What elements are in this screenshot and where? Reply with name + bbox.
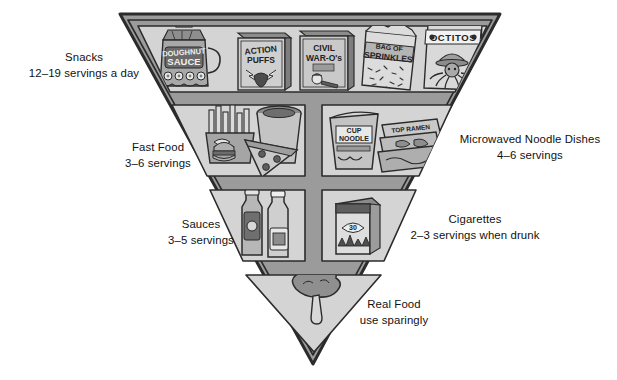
tier-label-snacks-servings: 12–19 servings a day (8, 65, 160, 81)
tier-label-cigarettes-title: Cigarettes (381, 211, 569, 227)
art-cup-noodle: CUP NOODLE (330, 112, 378, 169)
tier-label-sauces: Sauces 3–5 servings (137, 216, 265, 248)
tier-label-cigarettes: Cigarettes 2–3 servings when drunk (381, 211, 569, 243)
tier-label-noodles-servings: 4–6 servings (446, 147, 614, 163)
tier-label-sauces-servings: 3–5 servings (137, 232, 265, 248)
tier-label-cigarettes-servings: 2–3 servings when drunk (381, 227, 569, 243)
tier-label-fast-food-servings: 3–6 servings (96, 155, 220, 171)
tier-label-noodles: Microwaved Noodle Dishes 4–6 servings (446, 131, 614, 163)
art-cigarette-pack: 30 (336, 198, 380, 254)
svg-text:PUFFS: PUFFS (247, 55, 275, 65)
art-ramen-packets: TOP RAMEN (378, 119, 441, 172)
tier-label-sauces-title: Sauces (137, 216, 265, 232)
tier-label-real-food: Real Food use sparingly (336, 296, 452, 328)
tier-label-real-food-title: Real Food (336, 296, 452, 312)
tier-label-fast-food: Fast Food 3–6 servings (96, 139, 220, 171)
food-pyramid-figure: DOUGHNUT SAUCE ACTION PUFFS (0, 0, 617, 380)
svg-text:NOODLE: NOODLE (339, 135, 369, 142)
tier-label-snacks: Snacks 12–19 servings a day (8, 49, 160, 81)
svg-text:WAR-O's: WAR-O's (306, 53, 342, 63)
tier-label-noodles-title: Microwaved Noodle Dishes (446, 131, 614, 147)
art-bag-of-sprinkles: BAG OF SPRINKLES (362, 21, 416, 90)
art-action-puffs-box: ACTION PUFFS (238, 33, 291, 90)
svg-text:SAUCE: SAUCE (167, 56, 200, 67)
svg-text:CUP: CUP (347, 127, 362, 134)
tier-label-snacks-title: Snacks (8, 49, 160, 65)
svg-text:CIVIL: CIVIL (313, 43, 335, 53)
tier-label-real-food-servings: use sparingly (336, 312, 452, 328)
svg-text:30: 30 (349, 224, 357, 231)
art-civil-war-os-box: CIVIL WAR-O's (300, 31, 354, 90)
tier-label-fast-food-title: Fast Food (96, 139, 220, 155)
svg-text:OCTITOS: OCTITOS (430, 32, 476, 43)
